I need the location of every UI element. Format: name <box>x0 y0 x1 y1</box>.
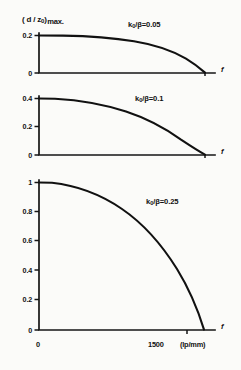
panel-1-annotation-k-sub: 0 <box>132 23 135 29</box>
panel-3-ytick-label-0.8: 0.8 <box>8 208 32 215</box>
panel-2-annotation-value: 0.1 <box>153 94 163 103</box>
panel-1-plot <box>0 0 241 370</box>
panel-1-x-axis-symbol: f <box>221 66 223 74</box>
panel-3-ytick-label-0: 0 <box>8 327 32 334</box>
panel-3-annotation-value: 0.25 <box>164 197 178 206</box>
panel-2-axes <box>39 96 215 155</box>
panel-3-annotation-beta: β <box>155 197 160 206</box>
panel-2-ytick-label-0.4: 0.4 <box>8 95 32 102</box>
panel-2-x-axis-symbol: f <box>221 148 223 156</box>
panel-3-axes <box>39 180 215 330</box>
panel-3-ytick-label-0.6: 0.6 <box>8 237 32 244</box>
x-axis-unit-label: (lp/mm) <box>180 341 205 348</box>
figure-container: ( d / z0)max. 0.2 0 k0/β=0.05 f 0.4 0.2 … <box>0 0 241 370</box>
y-axis-label: ( d / z0)max. <box>22 16 64 26</box>
panel-2-annotation: k0/β=0.1 <box>135 95 163 104</box>
panel-3-x-axis-symbol: f <box>221 323 223 331</box>
panel-1-annotation-beta: β <box>137 20 142 29</box>
panel-1-annotation: k0/β=0.05 <box>128 21 160 30</box>
panel-1-ytick-label-0: 0 <box>10 70 32 77</box>
panel-3-annotation: k0/β=0.25 <box>146 198 178 207</box>
panel-2-ytick-label-0: 0 <box>8 152 32 159</box>
panel-3-ytick-label-0.4: 0.4 <box>8 267 32 274</box>
y-axis-label-text: ( d / z <box>22 15 41 24</box>
panel-2-plot <box>0 0 241 370</box>
panel-2-annotation-k-sub: 0 <box>139 97 142 103</box>
y-axis-label-max: max. <box>47 17 64 26</box>
panel-3-curve <box>39 183 204 330</box>
panel-2-annotation-beta: β <box>144 94 149 103</box>
panel-3-plot <box>0 0 241 370</box>
panel-2-curve <box>39 99 205 155</box>
panel-1-curve <box>39 36 205 73</box>
panel-3-annotation-k-sub: 0 <box>150 200 153 206</box>
x-axis-tick-label-1500: 1500 <box>148 341 164 348</box>
panel-3-ytick-label-0.2: 0.2 <box>8 296 32 303</box>
panel-1-ytick-label-0.2: 0.2 <box>10 32 32 39</box>
panel-1-axes <box>39 33 215 73</box>
panel-1-annotation-value: 0.05 <box>146 20 160 29</box>
panel-2-ytick-label-0.2: 0.2 <box>8 123 32 130</box>
panel-3-ytick-label-1: 1 <box>8 179 32 186</box>
x-axis-tick-label-origin: 0 <box>36 341 40 348</box>
